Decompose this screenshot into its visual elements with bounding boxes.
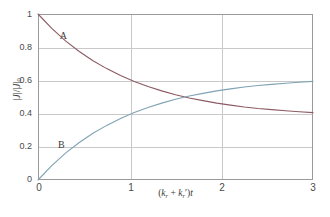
x-axis-title: (kr + kr′)t: [38, 188, 313, 199]
chart-figure: 1 0.8 0.6 0.4 0.2 0 |J|/|J|0 A B 0 1 2 3…: [0, 0, 330, 217]
series-label-a: A: [60, 31, 67, 41]
series-path-a: [38, 14, 313, 113]
series-label-b: B: [58, 140, 65, 150]
series-curves: [0, 0, 330, 217]
series-path-b: [38, 81, 313, 180]
